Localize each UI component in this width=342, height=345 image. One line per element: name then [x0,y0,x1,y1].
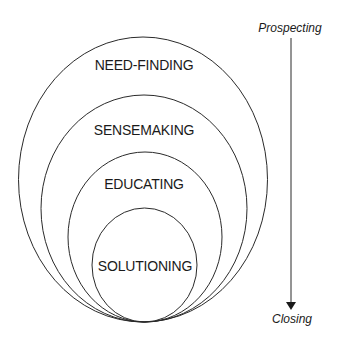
diagram-canvas [0,0,342,345]
arrow-down-icon [286,302,296,310]
stage-label-educating: EDUCATING [104,176,184,192]
stage-label-need-finding: NEED-FINDING [95,57,194,73]
stage-label-solutioning: SOLUTIONING [98,258,192,274]
axis-end-label: Closing [272,312,312,326]
axis-start-label: Prospecting [258,21,321,35]
stage-label-sensemaking: SENSEMAKING [94,122,195,138]
